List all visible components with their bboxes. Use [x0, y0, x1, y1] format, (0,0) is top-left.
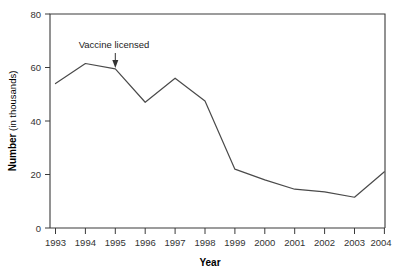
x-tick-label-1998: 1998 — [194, 237, 215, 248]
y-axis-title-rest: (in thousands) — [7, 71, 18, 134]
y-axis-ticks — [45, 14, 50, 228]
x-tick-label-1995: 1995 — [105, 237, 126, 248]
x-tick-label-1996: 1996 — [135, 237, 156, 248]
y-tick-label-40: 40 — [30, 116, 41, 127]
annotation-label: Vaccine licensed — [79, 39, 150, 50]
x-axis-ticks — [56, 228, 385, 234]
y-axis-title-bold: Number — [7, 133, 18, 171]
x-tick-label-2003: 2003 — [344, 237, 365, 248]
y-tick-label-60: 60 — [30, 62, 41, 73]
annotation-arrow-head — [112, 60, 118, 68]
x-tick-label-1993: 1993 — [45, 237, 66, 248]
x-axis-title: Year — [199, 257, 220, 268]
x-axis-tick-labels: 1993 1994 1995 1996 1997 1998 1999 2000 … — [45, 237, 392, 248]
y-axis-tick-labels: 0 20 40 60 80 — [30, 9, 41, 234]
chart-canvas: 0 20 40 60 80 1993 1994 1995 1996 — [0, 0, 399, 274]
x-tick-label-1999: 1999 — [224, 237, 245, 248]
x-tick-label-2004: 2004 — [370, 237, 391, 248]
x-tick-label-2000: 2000 — [254, 237, 275, 248]
x-tick-label-2002: 2002 — [314, 237, 335, 248]
y-tick-label-20: 20 — [30, 169, 41, 180]
x-tick-label-1997: 1997 — [165, 237, 186, 248]
data-series-line — [56, 63, 385, 197]
y-tick-label-0: 0 — [36, 223, 41, 234]
x-tick-label-2001: 2001 — [284, 237, 305, 248]
y-tick-label-80: 80 — [30, 9, 41, 20]
x-tick-label-1994: 1994 — [75, 237, 96, 248]
line-chart: 0 20 40 60 80 1993 1994 1995 1996 — [0, 0, 399, 274]
y-axis-title: Number (in thousands) — [7, 71, 18, 172]
y-axis-title-group: Number (in thousands) — [7, 71, 18, 172]
